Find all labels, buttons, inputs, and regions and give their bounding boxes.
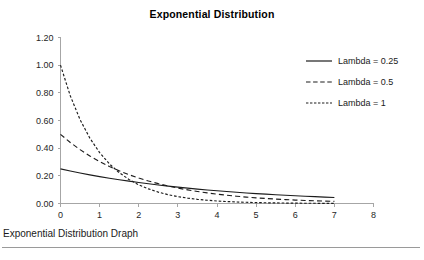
y-tick-label: 0.60 — [36, 116, 54, 126]
legend-line-swatch — [306, 57, 332, 65]
x-tick-label: 1 — [97, 210, 102, 220]
caption-text: Exponential Distribution Draph — [3, 228, 138, 239]
chart-figure: Exponential Distribution 0.000.200.400.6… — [0, 0, 424, 225]
y-tick-label: 0.20 — [36, 171, 54, 181]
series-line — [61, 169, 335, 198]
x-tick-label: 8 — [371, 210, 376, 220]
x-tick-label: 4 — [214, 210, 219, 220]
caption-divider — [2, 247, 420, 248]
y-tick-label: 0.80 — [36, 88, 54, 98]
x-tick-label: 6 — [293, 210, 298, 220]
y-tick-label: 0.40 — [36, 143, 54, 153]
legend-item: Lambda = 0.5 — [306, 71, 424, 92]
legend-item: Lambda = 0.25 — [306, 50, 424, 71]
legend-line-swatch — [306, 99, 332, 107]
x-tick-label: 3 — [175, 210, 180, 220]
x-axis-tick-group: 012345678 — [58, 204, 376, 220]
legend-item-label: Lambda = 0.25 — [338, 56, 398, 66]
chart-legend: Lambda = 0.25Lambda = 0.5Lambda = 1 — [306, 50, 424, 113]
x-tick-label: 5 — [254, 210, 259, 220]
x-tick-label: 7 — [332, 210, 337, 220]
y-tick-label: 0.00 — [36, 199, 54, 209]
series-line — [61, 65, 335, 203]
caption-area: Exponential Distribution Draph — [0, 225, 424, 260]
legend-line-swatch — [306, 78, 332, 86]
x-tick-label: 2 — [136, 210, 141, 220]
x-tick-label: 0 — [58, 210, 63, 220]
legend-item-label: Lambda = 0.5 — [338, 77, 393, 87]
y-axis-tick-group: 0.000.200.400.600.801.001.20 — [36, 33, 61, 209]
legend-item-label: Lambda = 1 — [338, 98, 386, 108]
legend-item: Lambda = 1 — [306, 92, 424, 113]
series-line — [61, 134, 335, 201]
y-tick-label: 1.20 — [36, 33, 54, 43]
data-series-group — [61, 65, 335, 203]
y-tick-label: 1.00 — [36, 60, 54, 70]
